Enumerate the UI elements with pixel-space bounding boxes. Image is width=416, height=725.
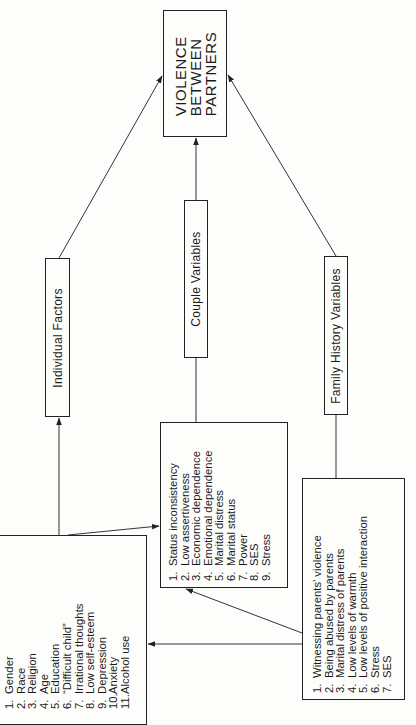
outcome-line-1: VIOLENCE [173, 31, 188, 115]
category-label-individual: Individual Factors [51, 288, 65, 387]
individual-factors-list-box: 1.Gender 2.Race 3.Religion 4.Age 5.Educa… [0, 535, 147, 725]
category-box-couple-variables: Couple Variables [184, 200, 208, 358]
family-history-list: 1.Witnessing parents’ violence 2.Being a… [312, 516, 393, 693]
couple-variables-list-box: 1.Status inconsistency 2.Low assertivene… [160, 422, 288, 588]
couple-variables-list: 1.Status inconsistency 2.Low assertivene… [168, 450, 272, 581]
outcome-line-3: PARTNERS [203, 31, 218, 115]
outcome-box-violence-between-partners: VIOLENCE BETWEEN PARTNERS [163, 10, 227, 137]
list-item: 8.Low self-esteem [85, 604, 97, 709]
list-item: 6.“Difficult child” [62, 604, 74, 709]
outcome-label: VIOLENCE BETWEEN PARTNERS [173, 31, 218, 115]
list-item: 1.Gender [4, 604, 16, 709]
list-item: 7.SES [382, 516, 394, 693]
arrow-family-to-outcome [228, 75, 336, 256]
list-item: 9.Stress [261, 450, 273, 581]
list-item: 11.Alcohol use [120, 604, 132, 709]
outcome-line-2: BETWEEN [188, 31, 203, 115]
list-item: 8.SES [249, 450, 261, 581]
list-item: 6.Marital status [226, 450, 238, 581]
category-label-couple: Couple Variables [189, 231, 203, 326]
family-history-list-box: 1.Witnessing parents’ violence 2.Being a… [302, 478, 405, 700]
individual-factors-list: 1.Gender 2.Race 3.Religion 4.Age 5.Educa… [4, 604, 132, 709]
list-item: 1.Status inconsistency [168, 450, 180, 581]
list-item: 1.Witnessing parents’ violence [312, 516, 324, 693]
category-box-individual-factors: Individual Factors [45, 258, 70, 417]
arrow-individual-to-outcome [59, 76, 162, 258]
arrow-family-list-to-couple-list [186, 589, 302, 633]
category-box-family-history-variables: Family History Variables [324, 256, 348, 415]
category-label-family: Family History Variables [329, 268, 343, 404]
arrow-individual-list-to-couple-list [68, 526, 159, 535]
list-item: 6.Stress [370, 516, 382, 693]
